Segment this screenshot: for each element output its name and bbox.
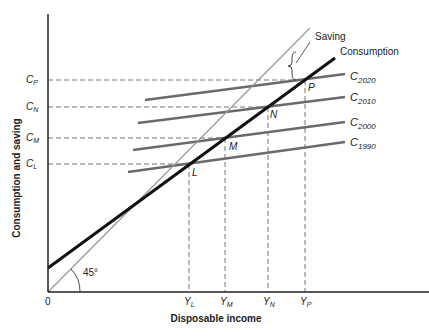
ytick-cm: CM <box>26 132 39 144</box>
xtick-yp: YP <box>300 296 312 308</box>
label-c2000: C2000 <box>350 116 376 131</box>
consumption-line <box>48 58 335 268</box>
point-n: N <box>270 109 278 120</box>
origin-label: 0 <box>45 296 51 307</box>
consumption-label: Consumption <box>340 46 399 57</box>
point-l: L <box>192 167 198 178</box>
forty-five-degree-line <box>48 28 310 292</box>
label-c2020: C2020 <box>350 70 376 85</box>
ytick-cp: CP <box>26 74 38 86</box>
curve-c2010 <box>138 97 345 123</box>
x-axis-title: Disposable income <box>170 313 262 324</box>
angle-arc <box>71 269 80 292</box>
label-c2010: C2010 <box>350 91 376 106</box>
point-p: P <box>308 82 315 93</box>
xtick-yn: YN <box>263 296 276 308</box>
y-axis-title: Consumption and saving <box>11 118 22 237</box>
saving-label: Saving <box>315 31 346 42</box>
ytick-cl: CL <box>26 158 37 170</box>
point-m: M <box>229 141 238 152</box>
label-c1990: C1990 <box>350 136 376 151</box>
xtick-yl: YL <box>184 296 195 308</box>
curve-c2020 <box>145 74 345 100</box>
xtick-ym: YM <box>220 296 233 308</box>
vertical-guides <box>189 80 305 292</box>
saving-brace <box>288 52 296 80</box>
saving-pointer <box>296 42 310 63</box>
ytick-cn: CN <box>26 101 39 113</box>
consumption-function-diagram: 45° 0 Saving Consumption C2020 C2010 C20… <box>0 0 429 336</box>
horizontal-guides <box>48 80 305 164</box>
angle-label: 45° <box>83 267 98 278</box>
